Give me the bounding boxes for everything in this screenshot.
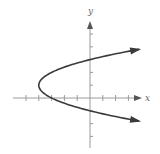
x-axis-label: x xyxy=(145,93,150,103)
y-axis-arrow-icon xyxy=(87,21,93,29)
lower-curve-arrow-icon xyxy=(130,116,141,123)
x-axis-arrow-icon xyxy=(134,95,142,101)
tick-marks xyxy=(26,34,128,136)
axes xyxy=(13,21,142,148)
parabola-curve xyxy=(39,49,139,121)
upper-curve-arrow-icon xyxy=(130,48,141,55)
parabola-chart: x y xyxy=(0,0,160,154)
y-axis-label: y xyxy=(87,6,94,16)
